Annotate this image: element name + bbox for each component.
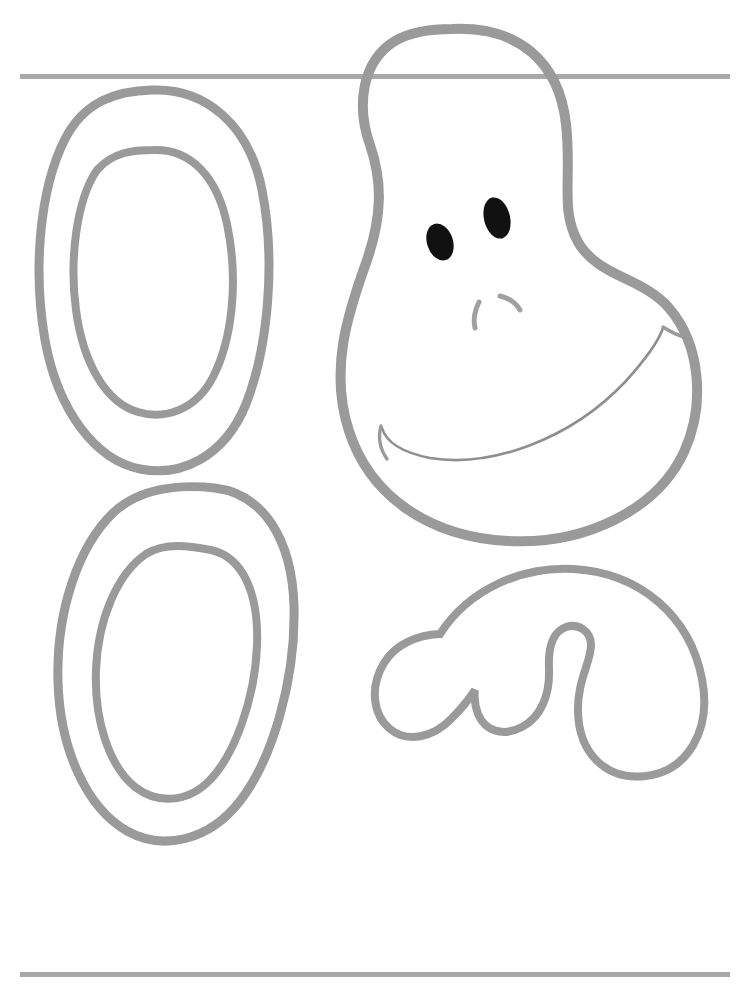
- pattern-sheet: [0, 0, 748, 995]
- face-eye-right-icon: [479, 194, 514, 241]
- face-nostril-left: [474, 302, 479, 328]
- ear-left-inner-outline: [74, 150, 233, 415]
- pattern-piece-ear-left: [39, 90, 269, 471]
- pattern-piece-face: [340, 29, 697, 541]
- pattern-piece-ear-right: [58, 487, 294, 841]
- face-nostril-right: [500, 296, 520, 310]
- face-outline: [340, 29, 697, 541]
- ear-right-inner-outline: [96, 546, 257, 799]
- pattern-artwork: [0, 0, 748, 995]
- face-mouth: [382, 328, 663, 460]
- pattern-piece-arm-upper: [375, 569, 704, 777]
- arm-upper-outline: [375, 569, 704, 777]
- face-eye-left-icon: [422, 220, 458, 264]
